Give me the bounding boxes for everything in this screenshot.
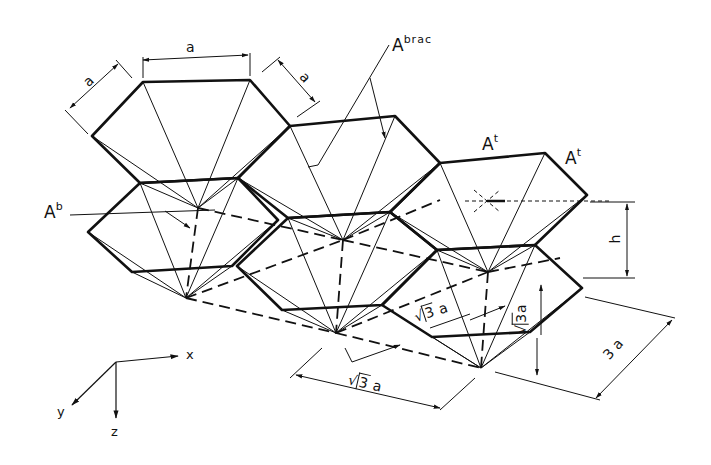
label-a-b: Ab <box>44 204 64 221</box>
x-axis-arrow <box>116 356 178 362</box>
axis-label-y: y <box>57 405 65 418</box>
y-axis-arrow <box>72 362 116 405</box>
bottom-chord-dashed <box>186 200 560 368</box>
axis-label-z: z <box>111 425 118 438</box>
hex-top-left <box>92 80 290 183</box>
dim-label-h: h <box>608 235 622 244</box>
leader-lines <box>70 45 389 228</box>
label-a-t-1: At <box>482 136 499 153</box>
hexagon-rims <box>88 80 587 337</box>
dim-label-a-top: a <box>186 40 195 54</box>
space-frame-diagram <box>0 0 711 465</box>
dimension-lines <box>65 53 675 410</box>
label-a-t-2: At <box>565 150 582 167</box>
hex-middle-upper <box>238 116 440 218</box>
label-a-brac: Abrac <box>392 37 432 54</box>
axis-triad <box>72 356 178 418</box>
hex-left-lower <box>88 178 278 272</box>
centre-mark <box>465 190 610 212</box>
axis-label-x: x <box>186 348 194 361</box>
dim-label-sqrt3a-inner-vertical: √3a <box>514 304 528 333</box>
